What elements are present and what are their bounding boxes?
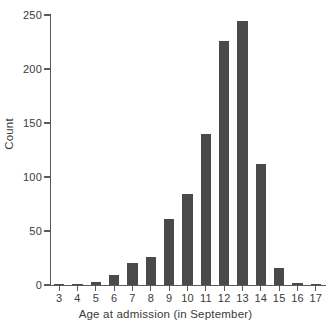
chart-screenshot: 050100150200250 34567891011121314151617 … bbox=[0, 0, 331, 331]
x-axis-tick-label: 5 bbox=[93, 292, 99, 304]
x-axis-tick bbox=[95, 286, 96, 291]
x-axis-tick-label: 15 bbox=[273, 292, 286, 304]
x-axis-tick bbox=[205, 286, 206, 291]
bar bbox=[54, 284, 65, 285]
bar bbox=[311, 284, 322, 285]
x-axis-tick bbox=[279, 286, 280, 291]
x-axis-tick bbox=[187, 286, 188, 291]
bar bbox=[91, 282, 102, 285]
x-axis-tick bbox=[59, 286, 60, 291]
x-axis-tick-label: 6 bbox=[111, 292, 117, 304]
bar bbox=[164, 219, 175, 285]
x-axis-tick-label: 11 bbox=[200, 292, 212, 304]
bar bbox=[256, 164, 267, 285]
y-axis-tick-label: 150 bbox=[23, 117, 42, 129]
x-axis-tick-label: 7 bbox=[129, 292, 135, 304]
y-axis-tick-label: 250 bbox=[23, 9, 42, 21]
bar bbox=[182, 194, 193, 285]
x-axis-tick bbox=[224, 286, 225, 291]
y-axis-tick-label: 50 bbox=[29, 225, 42, 237]
bar bbox=[237, 21, 248, 285]
bar bbox=[274, 268, 285, 285]
x-axis-tick bbox=[77, 286, 78, 291]
bar bbox=[109, 275, 120, 285]
x-axis-tick bbox=[260, 286, 261, 291]
bar bbox=[146, 257, 157, 285]
bar bbox=[72, 284, 83, 285]
bar bbox=[201, 134, 212, 285]
plot-area bbox=[50, 15, 325, 285]
x-axis-tick bbox=[297, 286, 298, 291]
x-axis-tick-label: 8 bbox=[148, 292, 154, 304]
x-axis-tick bbox=[242, 286, 243, 291]
x-axis-tick bbox=[150, 286, 151, 291]
y-axis-tick-label: 100 bbox=[23, 171, 42, 183]
y-axis-tick-label: 0 bbox=[36, 279, 42, 291]
bar-chart-figure: 050100150200250 34567891011121314151617 … bbox=[0, 0, 331, 331]
x-axis-tick-label: 10 bbox=[181, 292, 194, 304]
x-axis-tick bbox=[132, 286, 133, 291]
x-axis-tick bbox=[169, 286, 170, 291]
x-axis-tick-label: 14 bbox=[255, 292, 268, 304]
y-axis-tick-label: 200 bbox=[23, 63, 42, 75]
x-axis-tick bbox=[315, 286, 316, 291]
x-axis-tick-label: 9 bbox=[166, 292, 172, 304]
x-axis-tick-label: 12 bbox=[218, 292, 231, 304]
x-axis-tick-label: 4 bbox=[74, 292, 80, 304]
x-axis-tick-label: 13 bbox=[236, 292, 249, 304]
bar bbox=[292, 283, 303, 285]
y-axis-title: Count bbox=[3, 99, 15, 169]
x-axis-tick-label: 3 bbox=[56, 292, 62, 304]
x-axis-tick bbox=[114, 286, 115, 291]
bar bbox=[127, 263, 138, 285]
x-axis-tick-label: 17 bbox=[310, 292, 323, 304]
x-axis-title: Age at admission (in September) bbox=[0, 308, 331, 320]
bar bbox=[219, 41, 230, 285]
x-axis-tick-label: 16 bbox=[291, 292, 304, 304]
